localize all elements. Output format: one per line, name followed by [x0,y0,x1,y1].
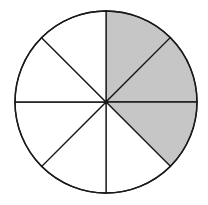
fraction-circle-diagram [0,0,208,205]
center-point [105,101,108,104]
